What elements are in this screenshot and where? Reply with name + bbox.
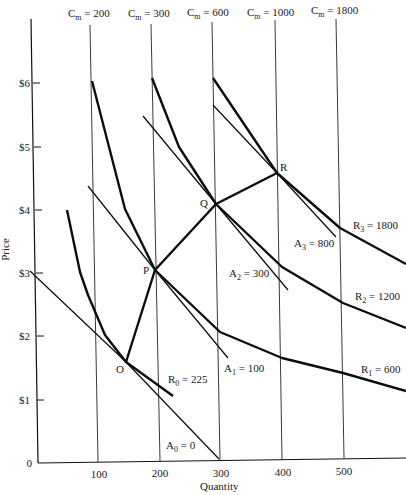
cm-sub: m [135,13,141,22]
cm-label-200: Cm = 200 [68,8,110,22]
a2-label: A2 = 300 [229,268,269,282]
cm-value: = 200 [84,7,109,19]
cm-label-600: Cm = 600 [187,7,229,21]
x-axis [38,458,406,463]
label-sub: 0 [175,379,179,388]
cm-value: = 600 [203,6,228,18]
y-axis-title: Price [0,238,11,261]
a0-line [30,271,219,459]
r0-label: R0 = 225 [168,374,208,388]
cm-value: = 1800 [327,4,358,16]
point-label-o: O [116,364,124,375]
cm-sub: m [75,13,81,22]
cm-value: = 300 [144,7,169,19]
a3-label: A3 = 800 [294,238,334,252]
label-base: A [229,267,237,279]
cm-sub: m [318,10,324,19]
y-tick-label-1: $1 [4,395,30,406]
cm-sub: m [254,12,260,21]
label-base: A [294,237,302,249]
r1-label: R1 = 600 [361,364,401,378]
cm-label-1800: Cm = 1800 [311,5,358,19]
cm-line-1000 [275,20,282,459]
cm-label-1000: Cm = 1000 [247,7,294,21]
y-tick-label-6: $6 [4,78,30,89]
x-tick-label-500: 500 [336,466,353,477]
y-tick-label-5: $5 [4,142,30,153]
label-sub: 1 [232,368,236,377]
label-value: = 300 [244,267,269,279]
r3-label: R3 = 1800 [353,220,398,234]
label-sub: 2 [362,296,366,305]
label-sub: 2 [237,273,241,282]
y-axis [31,19,38,463]
cm-label-300: Cm = 300 [128,8,170,22]
cm-sub: m [194,12,200,21]
y-tick-label-2: $2 [4,331,30,342]
advertising-lines [30,105,336,459]
label-base: A [224,362,232,374]
label-value: = 600 [375,363,400,375]
a1-label: A1 = 100 [224,363,264,377]
cm-value: = 1000 [263,6,294,18]
label-value: = 0 [181,439,195,451]
cm-line-1800 [336,19,344,458]
point-label-p: P [143,265,149,276]
label-value: = 225 [182,373,207,385]
label-base: A [166,439,174,451]
y-tick-label-4: $4 [4,205,30,216]
point-label-r: R [280,162,287,173]
label-value: = 100 [239,362,264,374]
x-axis-title: Quantity [200,481,239,492]
point-label-q: Q [200,198,208,209]
y-tick-label-0: 0 [6,458,32,469]
label-sub: 0 [174,445,178,454]
label-sub: 3 [360,225,364,234]
x-tick-label-400: 400 [275,467,292,478]
a0-label: A0 = 0 [166,440,195,454]
revenue-curves [67,78,406,396]
diagram-canvas [0,0,406,495]
x-tick-label-200: 200 [152,468,169,479]
label-value: = 1200 [369,290,400,302]
x-tick-label-100: 100 [91,469,108,480]
label-sub: 3 [302,243,306,252]
label-value: = 1800 [367,219,398,231]
r2-label: R2 = 1200 [355,291,400,305]
y-tick-label-3: $3 [4,268,30,279]
label-sub: 1 [368,369,372,378]
x-tick-label-300: 300 [213,468,230,479]
label-value: = 800 [309,237,334,249]
